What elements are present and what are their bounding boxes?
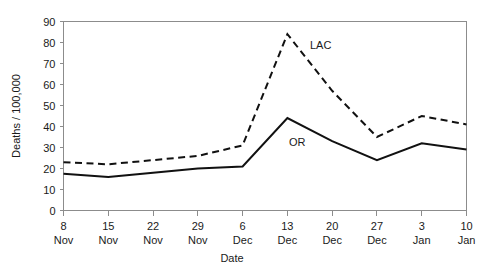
y-tick-label: 30 [43,142,55,154]
x-tick-label-day: 3 [419,220,425,232]
x-tick-label-month: Jan [413,234,431,246]
y-tick-label: 60 [43,79,55,91]
x-tick-label-day: 29 [192,220,204,232]
x-tick-label-month: Nov [143,234,163,246]
plot-frame [64,22,467,211]
x-tick-label-month: Dec [367,234,387,246]
x-tick-label-day: 27 [371,220,383,232]
series-line-or [64,118,467,177]
y-tick-label: 90 [43,16,55,28]
x-tick-label-day: 13 [281,220,293,232]
x-tick-label-day: 6 [240,220,246,232]
x-tick-label-month: Nov [54,234,74,246]
y-tick-label: 40 [43,121,55,133]
y-tick-label: 20 [43,163,55,175]
x-tick-label-day: 15 [102,220,114,232]
x-tick-label-month: Nov [188,234,208,246]
x-tick-label-month: Dec [322,234,342,246]
x-axis-title: Date [220,252,243,264]
chart-figure: 0102030405060708090 8Nov15Nov22Nov29Nov6… [0,0,496,271]
y-tick-label: 80 [43,37,55,49]
series-line-lac [64,34,467,164]
y-tick-label: 50 [43,100,55,112]
x-tick-label-day: 22 [147,220,159,232]
x-axis-ticks: 8Nov15Nov22Nov29Nov6Dec13Dec20Dec27Dec3J… [54,211,476,246]
x-tick-label-day: 20 [326,220,338,232]
y-tick-label: 70 [43,58,55,70]
plot-frame-border [64,22,467,211]
x-tick-label-month: Dec [278,234,298,246]
x-tick-label-month: Dec [233,234,253,246]
y-axis-title: Deaths / 100,000 [10,74,22,158]
line-chart-svg: 0102030405060708090 8Nov15Nov22Nov29Nov6… [0,0,496,271]
x-tick-label-month: Nov [98,234,118,246]
series-label-or: OR [289,136,306,148]
x-tick-label-day: 8 [60,220,66,232]
x-tick-label-month: Jan [458,234,476,246]
y-tick-label: 10 [43,184,55,196]
y-tick-label: 0 [49,205,55,217]
y-axis-ticks: 0102030405060708090 [43,16,63,217]
data-series-group [64,34,467,177]
x-tick-label-day: 10 [460,220,472,232]
series-label-lac: LAC [310,39,331,51]
